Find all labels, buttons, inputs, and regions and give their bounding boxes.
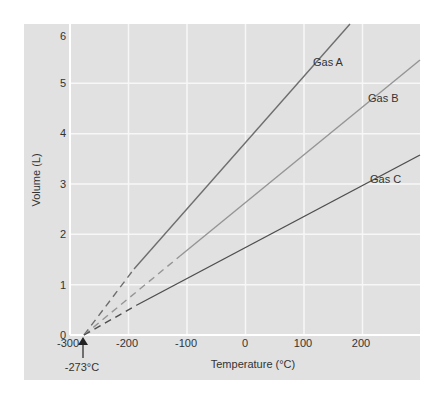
y-tick: 3 bbox=[60, 178, 66, 190]
x-tick: -100 bbox=[175, 337, 197, 349]
y-axis-label: Volume (L) bbox=[30, 153, 42, 206]
y-tick: 5 bbox=[60, 77, 66, 89]
chart-panel bbox=[24, 24, 420, 380]
y-tick: 2 bbox=[60, 228, 66, 240]
label-gas-b: Gas B bbox=[368, 92, 399, 104]
x-tick: 200 bbox=[352, 337, 370, 349]
x-tick: 100 bbox=[294, 337, 312, 349]
x-axis-label: Temperature (°C) bbox=[211, 358, 295, 370]
x-tick: -200 bbox=[116, 337, 138, 349]
y-tick: 6 bbox=[60, 30, 66, 42]
label-gas-c: Gas C bbox=[370, 173, 401, 185]
x-tick: 0 bbox=[242, 337, 248, 349]
y-tick: 4 bbox=[60, 127, 66, 139]
x-tick: -300 bbox=[57, 337, 79, 349]
absolute-zero-label: -273°C bbox=[65, 361, 99, 373]
y-tick: 1 bbox=[60, 279, 66, 291]
label-gas-a: Gas A bbox=[313, 56, 344, 68]
chart: Gas A Gas B Gas C 0 1 2 3 4 5 6 -300 -20… bbox=[0, 0, 441, 394]
